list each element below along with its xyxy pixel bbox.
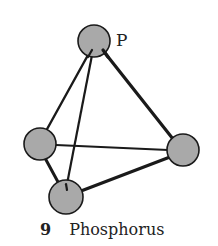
caption-number: 9 xyxy=(40,220,51,239)
figure-caption: 9Phosphorus xyxy=(40,220,164,239)
atom-right xyxy=(167,134,199,166)
bond-top-right xyxy=(105,53,173,139)
caption-text: Phosphorus xyxy=(69,220,164,239)
atom-label-p: P xyxy=(116,30,127,50)
p4-tetrahedron-diagram xyxy=(0,0,218,246)
bonds xyxy=(45,50,173,191)
bond-overlays xyxy=(66,50,108,190)
atoms xyxy=(24,25,199,214)
atom-left xyxy=(24,128,56,160)
bond-top-left xyxy=(46,55,88,131)
bond-left-bottom xyxy=(45,158,58,182)
bond-overlay-bottom xyxy=(66,184,67,190)
bond-right-bottom xyxy=(81,157,170,191)
